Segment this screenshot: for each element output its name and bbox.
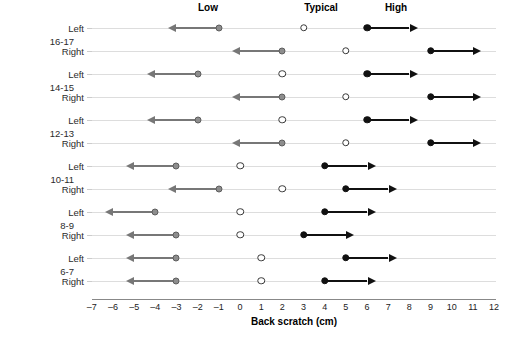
low-marker-dot xyxy=(173,162,180,169)
low-range-line xyxy=(155,73,197,74)
high-range-line xyxy=(367,119,409,121)
row-tick xyxy=(87,51,92,52)
typical-marker-dot xyxy=(279,70,287,78)
high-marker-dot xyxy=(300,231,308,239)
low-range-line xyxy=(134,257,176,258)
x-tick-label: –4 xyxy=(150,302,160,312)
x-tick-label: –3 xyxy=(171,302,181,312)
low-marker-dot xyxy=(215,24,222,31)
high-arrowhead-icon xyxy=(389,254,397,262)
chart-row: Left xyxy=(92,18,496,38)
high-arrowhead-icon xyxy=(473,93,481,101)
x-tick-label: 8 xyxy=(407,302,412,312)
low-arrowhead-icon xyxy=(168,185,176,193)
high-range-line xyxy=(346,188,388,190)
low-marker-dot xyxy=(279,139,286,146)
x-tick-label: 9 xyxy=(428,302,433,312)
chart-row: Right xyxy=(92,225,496,245)
low-marker-dot xyxy=(173,277,180,284)
x-tick-label: –7 xyxy=(87,302,97,312)
high-marker-dot xyxy=(363,116,371,124)
low-marker-dot xyxy=(194,70,201,77)
age-group-label: 12-13 xyxy=(28,128,74,139)
low-range-line xyxy=(240,142,282,143)
typical-marker-dot xyxy=(257,277,265,285)
typical-marker-dot xyxy=(236,162,244,170)
low-range-line xyxy=(155,119,197,120)
row-tick xyxy=(87,235,92,236)
high-arrowhead-icon xyxy=(346,231,354,239)
x-tick-label: 7 xyxy=(386,302,391,312)
high-arrowhead-icon xyxy=(410,70,418,78)
high-marker-dot xyxy=(363,70,371,78)
age-group-label: 8-9 xyxy=(28,220,74,231)
chart-row: Left xyxy=(92,248,496,268)
x-tick-label: 12 xyxy=(489,302,499,312)
low-arrowhead-icon xyxy=(126,162,134,170)
x-tick-label: –1 xyxy=(214,302,224,312)
typical-marker-dot xyxy=(279,185,287,193)
high-marker-dot xyxy=(342,254,350,262)
row-tick xyxy=(87,28,92,29)
plot-area: LeftRightLeftRightLeftRightLeftRightLeft… xyxy=(92,18,496,294)
low-arrowhead-icon xyxy=(232,47,240,55)
high-marker-dot xyxy=(321,208,329,216)
age-group-label: 10-11 xyxy=(28,174,74,185)
chart-row: Right xyxy=(92,87,496,107)
zone-label-low: Low xyxy=(198,2,218,13)
x-tick-label: 11 xyxy=(468,302,477,312)
chart-row: Right xyxy=(92,41,496,61)
high-range-line xyxy=(367,73,409,75)
row-tick xyxy=(87,143,92,144)
typical-marker-dot xyxy=(342,139,350,147)
x-tick-label: –6 xyxy=(108,302,118,312)
high-range-line xyxy=(431,96,473,98)
low-marker-dot xyxy=(152,208,159,215)
low-arrowhead-icon xyxy=(126,254,134,262)
high-arrowhead-icon xyxy=(389,185,397,193)
chart-container: Low Typical High Age range (years) LeftR… xyxy=(0,0,506,349)
x-tick-label: 4 xyxy=(322,302,327,312)
high-range-line xyxy=(431,142,473,144)
high-marker-dot xyxy=(427,47,435,55)
high-marker-dot xyxy=(321,277,329,285)
row-tick xyxy=(87,166,92,167)
chart-row: Left xyxy=(92,110,496,130)
age-group-label: 16-17 xyxy=(28,36,74,47)
x-tick-label: 1 xyxy=(259,302,264,312)
row-tick xyxy=(87,120,92,121)
row-tick xyxy=(87,97,92,98)
low-arrowhead-icon xyxy=(147,70,155,78)
row-baseline xyxy=(92,189,496,190)
typical-marker-dot xyxy=(342,93,350,101)
high-marker-dot xyxy=(342,185,350,193)
row-tick xyxy=(87,189,92,190)
row-tick xyxy=(87,212,92,213)
high-range-line xyxy=(367,27,409,29)
low-range-line xyxy=(240,96,282,97)
x-tick-label: 6 xyxy=(365,302,370,312)
age-group-label: 14-15 xyxy=(28,82,74,93)
chart-row: Right xyxy=(92,133,496,153)
high-range-line xyxy=(304,234,346,236)
zone-label-typical: Typical xyxy=(304,2,338,13)
x-axis-line xyxy=(92,299,496,300)
low-marker-dot xyxy=(194,116,201,123)
high-arrowhead-icon xyxy=(368,277,376,285)
high-range-line xyxy=(346,257,388,259)
low-range-line xyxy=(176,27,218,28)
low-arrowhead-icon xyxy=(126,277,134,285)
low-marker-dot xyxy=(279,47,286,54)
high-arrowhead-icon xyxy=(473,47,481,55)
high-marker-dot xyxy=(321,162,329,170)
low-arrowhead-icon xyxy=(147,116,155,124)
low-marker-dot xyxy=(173,254,180,261)
low-arrowhead-icon xyxy=(232,93,240,101)
high-arrowhead-icon xyxy=(368,208,376,216)
low-arrowhead-icon xyxy=(168,24,176,32)
low-range-line xyxy=(113,211,155,212)
low-range-line xyxy=(240,50,282,51)
typical-marker-dot xyxy=(342,47,350,55)
typical-marker-dot xyxy=(279,116,287,124)
row-tick xyxy=(87,258,92,259)
